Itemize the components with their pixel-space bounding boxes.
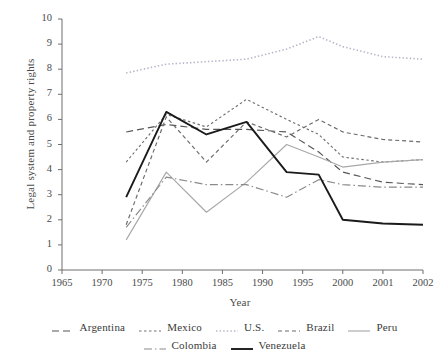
y-tick-label: 1 bbox=[30, 238, 52, 249]
series-line-us bbox=[126, 37, 423, 73]
data-series-group bbox=[126, 37, 423, 240]
y-tick-label: 7 bbox=[30, 87, 52, 98]
legend-label: U.S. bbox=[244, 321, 264, 333]
legend-item-peru[interactable]: Peru bbox=[347, 321, 397, 333]
x-axis-title: Year bbox=[229, 296, 250, 308]
series-line-peru bbox=[126, 145, 423, 240]
legend-label: Mexico bbox=[167, 321, 202, 333]
legend-label: Brazil bbox=[306, 321, 334, 333]
x-tick-label: 1965 bbox=[42, 277, 82, 288]
legend-label: Venezuela bbox=[259, 339, 306, 351]
axis-lines bbox=[62, 19, 423, 270]
x-tick-label: 2001 bbox=[363, 277, 403, 288]
x-tick-label: 1995 bbox=[283, 277, 323, 288]
y-tick-label: 0 bbox=[30, 263, 52, 274]
legend-swatch-argentina bbox=[51, 322, 75, 332]
x-tick-label: 1985 bbox=[202, 277, 242, 288]
legend-label: Colombia bbox=[172, 339, 217, 351]
chart-legend: ArgentinaMexicoU.S.BrazilPeru ColombiaVe… bbox=[0, 318, 448, 354]
legend-swatch-mexico bbox=[138, 322, 162, 332]
legend-item-us[interactable]: U.S. bbox=[215, 321, 264, 333]
series-line-argentina bbox=[126, 124, 423, 184]
legend-label: Argentina bbox=[80, 321, 126, 333]
legend-swatch-us bbox=[215, 322, 239, 332]
legend-swatch-colombia bbox=[143, 340, 167, 350]
y-tick-label: 10 bbox=[30, 12, 52, 23]
legend-swatch-venezuela bbox=[230, 340, 254, 350]
y-tick-label: 5 bbox=[30, 138, 52, 149]
legend-item-venezuela[interactable]: Venezuela bbox=[230, 339, 306, 351]
y-tick-label: 9 bbox=[30, 37, 52, 48]
chart-figure: Legal system and property rights Year 01… bbox=[0, 0, 448, 361]
y-tick-label: 4 bbox=[30, 163, 52, 174]
x-tick-label: 2000 bbox=[323, 277, 363, 288]
legend-swatch-brazil bbox=[277, 322, 301, 332]
legend-item-mexico[interactable]: Mexico bbox=[138, 321, 202, 333]
legend-label: Peru bbox=[376, 321, 397, 333]
x-axis-title-wrapper: Year bbox=[55, 296, 425, 308]
legend-item-colombia[interactable]: Colombia bbox=[143, 339, 217, 351]
x-tick-label: 1990 bbox=[243, 277, 283, 288]
x-tick-label: 1970 bbox=[82, 277, 122, 288]
legend-row-primary: ArgentinaMexicoU.S.BrazilPeru bbox=[0, 318, 448, 336]
x-tick-label: 1980 bbox=[162, 277, 202, 288]
y-tick-label: 2 bbox=[30, 213, 52, 224]
legend-row-secondary: ColombiaVenezuela bbox=[0, 336, 448, 354]
y-tick-label: 8 bbox=[30, 62, 52, 73]
y-tick-label: 6 bbox=[30, 112, 52, 123]
y-tick-label: 3 bbox=[30, 188, 52, 199]
legend-swatch-peru bbox=[347, 322, 371, 332]
series-line-venezuela bbox=[126, 112, 423, 225]
x-axis-ticks bbox=[62, 270, 423, 274]
series-line-colombia bbox=[126, 177, 423, 227]
series-line-brazil bbox=[126, 117, 423, 225]
y-axis-ticks bbox=[58, 19, 62, 270]
x-tick-label: 2002 bbox=[403, 277, 443, 288]
x-tick-label: 1975 bbox=[122, 277, 162, 288]
legend-item-argentina[interactable]: Argentina bbox=[51, 321, 126, 333]
legend-item-brazil[interactable]: Brazil bbox=[277, 321, 334, 333]
